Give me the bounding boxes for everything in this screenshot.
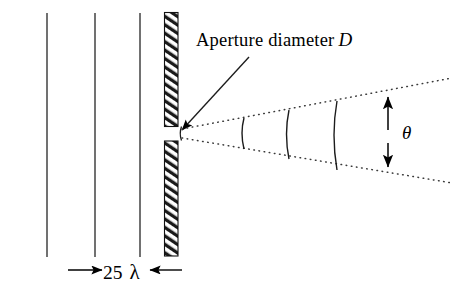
wavefront-arc	[242, 118, 244, 149]
diffraction-diagram: Aperture diameterD θ 25λ	[0, 0, 458, 302]
aperture-leader-arrow	[182, 57, 249, 130]
aperture-diameter-label: Aperture diameterD	[196, 30, 352, 50]
aperture-symbol: D	[334, 29, 352, 50]
cone-lower-edge	[182, 138, 452, 183]
diffracted-wavefronts	[242, 101, 337, 170]
barrier-upper-segment	[165, 13, 179, 127]
wavefront-arc	[287, 110, 290, 159]
barrier-lower-segment	[165, 141, 179, 256]
wavelength-spacing-label: 25λ	[103, 262, 140, 283]
spacing-value: 25	[103, 262, 123, 283]
wavefront-arc	[334, 101, 337, 170]
incident-plane-wavefronts	[47, 13, 140, 257]
diffraction-angle-label: θ	[402, 123, 411, 142]
aperture-wavefront-arc	[180, 127, 181, 141]
aperture-label-text: Aperture diameter	[196, 30, 334, 50]
aperture-barrier	[165, 13, 179, 257]
diffraction-cone-boundary	[182, 78, 452, 183]
lambda-symbol: λ	[123, 260, 140, 284]
